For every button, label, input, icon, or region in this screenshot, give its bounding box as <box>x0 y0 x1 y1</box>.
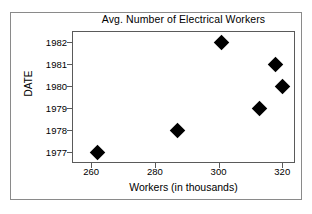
y-tick-mark <box>67 86 72 87</box>
y-tick-label: 1981 <box>27 59 67 70</box>
y-tick-mark <box>67 64 72 65</box>
y-tick-mark <box>67 130 72 131</box>
y-tick-label: 1979 <box>27 103 67 114</box>
y-tick-label: 1977 <box>27 147 67 158</box>
plot-area <box>72 31 295 163</box>
x-tick-label: 260 <box>71 166 111 177</box>
y-tick-label: 1978 <box>27 125 67 136</box>
y-tick-label: 1982 <box>27 37 67 48</box>
x-tick-label: 320 <box>262 166 302 177</box>
x-tick-label: 300 <box>199 166 239 177</box>
y-tick-label: 1980 <box>27 81 67 92</box>
y-tick-mark <box>67 108 72 109</box>
x-tick-label: 280 <box>135 166 175 177</box>
chart-title: Avg. Number of Electrical Workers <box>72 13 295 25</box>
scatter-chart: Avg. Number of Electrical Workers DATE 1… <box>0 0 312 214</box>
y-tick-mark <box>67 152 72 153</box>
x-axis-title: Workers (in thousands) <box>72 181 295 193</box>
y-tick-mark <box>67 42 72 43</box>
